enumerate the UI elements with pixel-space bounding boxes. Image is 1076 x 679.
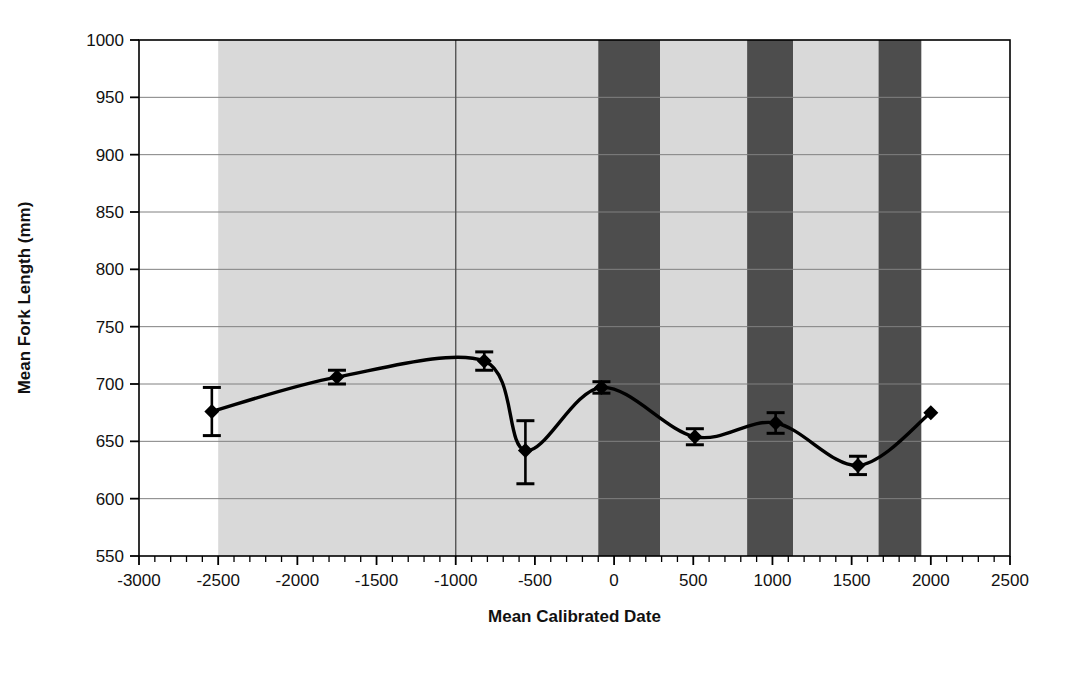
shaded-band-light-5 bbox=[793, 40, 879, 556]
xtick-label-500: 500 bbox=[679, 571, 707, 590]
xtick-label--2000: -2000 bbox=[276, 571, 319, 590]
xtick-label-2500: 2500 bbox=[991, 571, 1029, 590]
xtick-label--3000: -3000 bbox=[117, 571, 160, 590]
shaded-band-light-3 bbox=[660, 40, 747, 556]
ytick-label-1000: 1000 bbox=[86, 31, 124, 50]
ytick-label-750: 750 bbox=[96, 318, 124, 337]
xtick-label--500: -500 bbox=[518, 571, 552, 590]
shaded-band-dark-4 bbox=[747, 40, 793, 556]
shaded-band-light-1 bbox=[456, 40, 599, 556]
chart-canvas: -3000-2500-2000-1500-1000-50005001000150… bbox=[0, 0, 1076, 679]
ytick-label-550: 550 bbox=[96, 547, 124, 566]
shaded-band-dark-2 bbox=[598, 40, 660, 556]
ytick-label-900: 900 bbox=[96, 146, 124, 165]
ytick-label-650: 650 bbox=[96, 432, 124, 451]
xtick-label-1000: 1000 bbox=[754, 571, 792, 590]
x-axis-title: Mean Calibrated Date bbox=[488, 607, 661, 626]
xtick-label--1000: -1000 bbox=[434, 571, 477, 590]
xtick-label--1500: -1500 bbox=[355, 571, 398, 590]
xtick-label-2000: 2000 bbox=[912, 571, 950, 590]
shaded-band-light-0 bbox=[218, 40, 456, 556]
ytick-label-850: 850 bbox=[96, 203, 124, 222]
y-axis-title: Mean Fork Length (mm) bbox=[15, 202, 34, 395]
shaded-band-dark-6 bbox=[879, 40, 922, 556]
ytick-label-700: 700 bbox=[96, 375, 124, 394]
xtick-label-0: 0 bbox=[609, 571, 618, 590]
ytick-label-950: 950 bbox=[96, 88, 124, 107]
ytick-label-800: 800 bbox=[96, 260, 124, 279]
xtick-label-1500: 1500 bbox=[833, 571, 871, 590]
ytick-label-600: 600 bbox=[96, 490, 124, 509]
xtick-label--2500: -2500 bbox=[196, 571, 239, 590]
figure-container: -3000-2500-2000-1500-1000-50005001000150… bbox=[0, 0, 1076, 679]
